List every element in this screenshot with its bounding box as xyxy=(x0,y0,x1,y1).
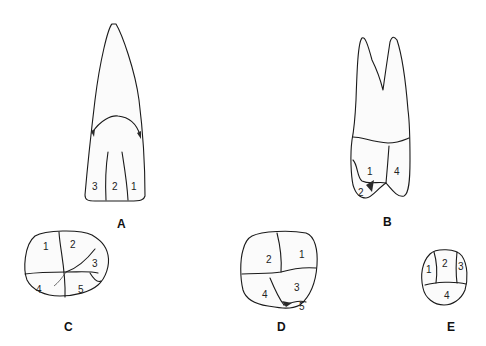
tooth-b-num-1: 1 xyxy=(367,166,373,177)
tooth-b-num-4: 4 xyxy=(394,166,400,177)
tooth-c-num-3: 3 xyxy=(92,258,98,269)
panel-label-a: A xyxy=(117,217,126,231)
tooth-e-num-4: 4 xyxy=(444,290,450,301)
tooth-d-num-4: 4 xyxy=(262,289,268,300)
tooth-c-num-2: 2 xyxy=(70,239,76,250)
dental-anatomy-figure: 3 2 1 A 1 4 2 B 1 2 3 4 5 C 2 xyxy=(0,0,486,346)
tooth-a-num-2: 2 xyxy=(112,181,118,192)
panel-e-tooth: 1 2 3 4 E xyxy=(422,250,467,334)
panel-label-c: C xyxy=(64,320,73,334)
tooth-d-num-5: 5 xyxy=(299,301,305,312)
tooth-e-num-2: 2 xyxy=(442,258,448,269)
tooth-c-num-1: 1 xyxy=(43,241,49,252)
tooth-a-num-1: 1 xyxy=(131,181,137,192)
panel-c-tooth: 1 2 3 4 5 C xyxy=(25,231,109,334)
tooth-e-num-1: 1 xyxy=(426,264,432,275)
tooth-c-num-5: 5 xyxy=(78,284,84,295)
tooth-b-num-2: 2 xyxy=(358,187,364,198)
panel-label-e: E xyxy=(447,320,455,334)
panel-d-tooth: 2 1 3 4 5 D xyxy=(241,231,317,334)
panel-label-d: D xyxy=(277,320,286,334)
panel-label-b: B xyxy=(383,215,392,229)
tooth-a-outline xyxy=(85,24,145,201)
panel-a-tooth: 3 2 1 A xyxy=(85,24,145,231)
tooth-d-num-2: 2 xyxy=(266,254,272,265)
panel-b-tooth: 1 4 2 B xyxy=(351,37,410,229)
tooth-c-num-4: 4 xyxy=(36,284,42,295)
tooth-b-outline xyxy=(351,37,410,198)
tooth-d-num-1: 1 xyxy=(299,249,305,260)
tooth-e-num-3: 3 xyxy=(458,261,464,272)
tooth-a-num-3: 3 xyxy=(92,181,98,192)
tooth-d-num-3: 3 xyxy=(294,282,300,293)
